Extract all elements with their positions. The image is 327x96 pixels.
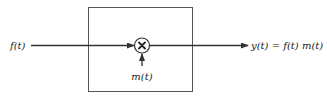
input-label: f(t) xyxy=(9,40,26,51)
output-label: y(t) = f(t) m(t) xyxy=(250,40,323,51)
modulating-label: m(t) xyxy=(131,71,152,82)
modulator-diagram: f(t) m(t) y(t) = f(t) m(t) xyxy=(0,0,327,96)
multiplier-node xyxy=(135,38,150,53)
